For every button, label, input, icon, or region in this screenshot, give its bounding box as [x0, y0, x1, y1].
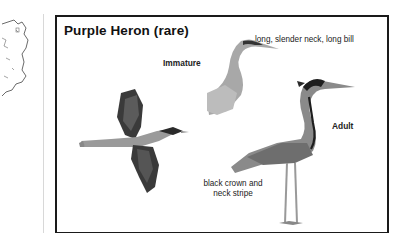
- column-divider: [43, 14, 44, 233]
- flying-heron-icon: [77, 85, 189, 195]
- purple-heron-panel: Purple Heron (rare) Immature long, slend…: [55, 15, 389, 233]
- label-immature: Immature: [163, 58, 201, 68]
- ireland-map-icon: [0, 18, 32, 98]
- panel-title: Purple Heron (rare): [64, 23, 189, 38]
- adult-heron-icon: [227, 73, 372, 233]
